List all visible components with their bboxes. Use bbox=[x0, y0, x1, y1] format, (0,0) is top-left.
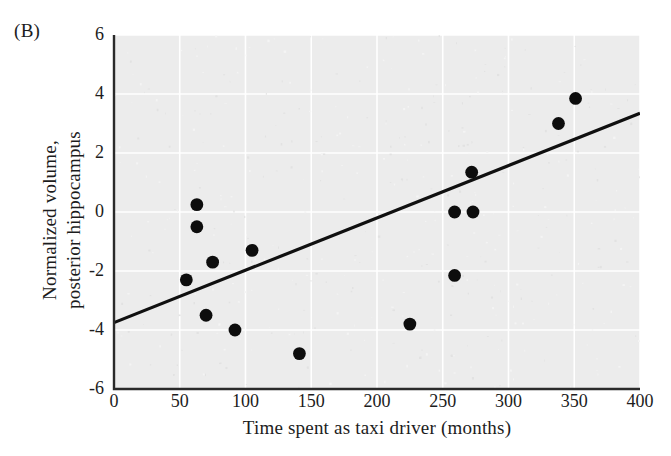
texture-speck bbox=[500, 290, 501, 292]
texture-speck bbox=[405, 136, 406, 138]
texture-speck bbox=[378, 236, 380, 238]
texture-speck bbox=[391, 69, 392, 70]
texture-speck bbox=[246, 143, 247, 144]
texture-speck bbox=[218, 323, 220, 325]
texture-speck bbox=[451, 355, 453, 357]
texture-speck bbox=[508, 301, 510, 302]
texture-speck bbox=[354, 255, 356, 256]
texture-speck bbox=[265, 136, 266, 138]
texture-speck bbox=[426, 264, 428, 265]
data-point bbox=[465, 166, 478, 179]
texture-speck bbox=[551, 274, 552, 275]
texture-speck bbox=[239, 339, 240, 340]
texture-speck bbox=[434, 211, 435, 212]
texture-speck bbox=[291, 140, 292, 142]
texture-speck bbox=[213, 234, 214, 236]
texture-speck bbox=[407, 179, 408, 181]
texture-speck bbox=[618, 366, 620, 368]
texture-speck bbox=[544, 206, 546, 208]
texture-speck bbox=[502, 172, 504, 173]
texture-speck bbox=[613, 137, 615, 139]
texture-speck bbox=[426, 353, 428, 355]
texture-speck bbox=[491, 297, 493, 299]
texture-speck bbox=[421, 145, 422, 146]
texture-speck bbox=[444, 382, 446, 384]
texture-speck bbox=[423, 176, 425, 177]
texture-speck bbox=[494, 249, 496, 251]
texture-speck bbox=[559, 252, 560, 253]
texture-speck bbox=[523, 149, 524, 151]
texture-speck bbox=[559, 81, 561, 82]
texture-speck bbox=[538, 248, 540, 249]
texture-speck bbox=[638, 169, 639, 170]
texture-speck bbox=[341, 165, 343, 166]
texture-speck bbox=[127, 293, 129, 294]
texture-speck bbox=[173, 374, 175, 376]
texture-speck bbox=[475, 192, 476, 193]
texture-speck bbox=[467, 345, 468, 346]
texture-speck bbox=[394, 184, 395, 186]
texture-speck bbox=[367, 67, 369, 68]
texture-speck bbox=[203, 142, 204, 143]
texture-speck bbox=[591, 91, 592, 93]
x-tick-label: 50 bbox=[150, 391, 210, 412]
texture-speck bbox=[216, 333, 218, 334]
texture-speck bbox=[321, 153, 323, 155]
texture-speck bbox=[246, 234, 247, 236]
texture-speck bbox=[544, 360, 545, 362]
texture-speck bbox=[589, 106, 590, 108]
texture-speck bbox=[281, 143, 283, 146]
texture-speck bbox=[231, 224, 232, 225]
texture-speck bbox=[339, 133, 341, 135]
texture-speck bbox=[352, 146, 354, 147]
texture-speck bbox=[600, 266, 602, 268]
texture-speck bbox=[150, 295, 152, 296]
texture-speck bbox=[143, 324, 144, 325]
texture-speck bbox=[432, 254, 434, 255]
texture-speck bbox=[271, 333, 273, 334]
texture-speck bbox=[329, 383, 331, 385]
texture-speck bbox=[383, 158, 385, 160]
x-tick-label: 200 bbox=[347, 391, 407, 412]
texture-speck bbox=[597, 358, 598, 360]
texture-speck bbox=[605, 89, 606, 91]
texture-speck bbox=[598, 373, 599, 375]
texture-speck bbox=[538, 215, 539, 216]
texture-speck bbox=[447, 245, 449, 246]
texture-speck bbox=[595, 169, 596, 170]
texture-speck bbox=[493, 213, 494, 214]
texture-speck bbox=[202, 72, 204, 73]
texture-speck bbox=[321, 259, 323, 260]
texture-speck bbox=[224, 103, 227, 104]
texture-speck bbox=[337, 312, 339, 314]
texture-speck bbox=[501, 339, 502, 341]
texture-speck bbox=[278, 268, 279, 270]
texture-speck bbox=[511, 110, 513, 111]
texture-speck bbox=[592, 329, 594, 330]
texture-speck bbox=[402, 316, 404, 317]
texture-speck bbox=[224, 349, 226, 351]
texture-speck bbox=[364, 340, 365, 341]
texture-speck bbox=[314, 328, 316, 329]
texture-speck bbox=[548, 219, 550, 220]
texture-speck bbox=[522, 323, 524, 325]
texture-speck bbox=[416, 196, 418, 198]
texture-speck bbox=[390, 154, 392, 156]
data-point bbox=[229, 324, 242, 337]
texture-speck bbox=[617, 108, 619, 109]
texture-speck bbox=[403, 292, 405, 293]
texture-speck bbox=[451, 175, 453, 177]
texture-speck bbox=[203, 374, 205, 376]
texture-speck bbox=[299, 108, 301, 109]
texture-speck bbox=[408, 88, 409, 90]
texture-speck bbox=[322, 170, 323, 172]
texture-speck bbox=[197, 332, 199, 334]
texture-speck bbox=[438, 281, 440, 283]
texture-speck bbox=[625, 207, 626, 208]
texture-speck bbox=[152, 252, 153, 253]
texture-speck bbox=[215, 95, 217, 97]
texture-speck bbox=[492, 307, 494, 309]
texture-speck bbox=[307, 366, 309, 368]
texture-speck bbox=[467, 279, 468, 281]
texture-speck bbox=[351, 291, 353, 293]
